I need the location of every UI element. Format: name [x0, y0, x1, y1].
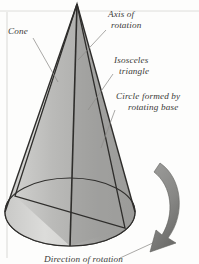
label-circle-formed: Circle formed by rotating base	[116, 91, 180, 112]
label-axis-line1: Axis of	[108, 9, 141, 20]
cone-surface	[5, 4, 135, 246]
leader-cone	[33, 38, 58, 82]
label-circle-line1: Circle formed by	[116, 91, 180, 102]
label-cone: Cone	[8, 26, 28, 37]
label-cone-line1: Cone	[8, 26, 28, 37]
label-circle-line2: rotating base	[116, 102, 180, 113]
rotation-arrow	[150, 163, 179, 252]
cone-rotation-diagram	[0, 0, 199, 264]
label-isosceles-triangle: Isosceles triangle	[114, 55, 149, 76]
label-isosceles-line2: triangle	[114, 66, 149, 77]
label-direction-of-rotation: Direction of rotation	[44, 254, 123, 264]
label-axis-line2: rotation	[108, 20, 141, 31]
label-axis-of-rotation: Axis of rotation	[108, 9, 141, 30]
label-isosceles-line1: Isosceles	[114, 55, 149, 66]
label-direction-line1: Direction of rotation	[44, 254, 123, 264]
figure-page: Cone Axis of rotation Isosceles triangle…	[0, 0, 199, 264]
